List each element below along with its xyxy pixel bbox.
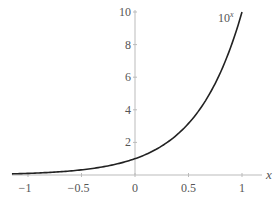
exponential-chart: −1−0.500.51 246810 x 10x	[0, 0, 278, 198]
axes	[12, 10, 262, 175]
x-axis-label: x	[265, 167, 272, 182]
series-label: 10x	[218, 10, 234, 25]
x-tick-label: −0.5	[68, 181, 90, 195]
y-tick-label: 8	[125, 38, 131, 52]
x-tick-label: 0.5	[181, 181, 196, 195]
y-ticks: 246810	[119, 5, 137, 149]
curve-10-pow-x	[12, 12, 242, 174]
y-tick-label: 2	[125, 135, 131, 149]
y-tick-label: 4	[125, 103, 131, 117]
y-tick-label: 10	[119, 5, 131, 19]
x-tick-label: 1	[239, 181, 245, 195]
y-tick-label: 6	[125, 70, 131, 84]
x-ticks: −1−0.500.51	[19, 173, 245, 195]
x-tick-label: −1	[19, 181, 32, 195]
x-tick-label: 0	[132, 181, 138, 195]
